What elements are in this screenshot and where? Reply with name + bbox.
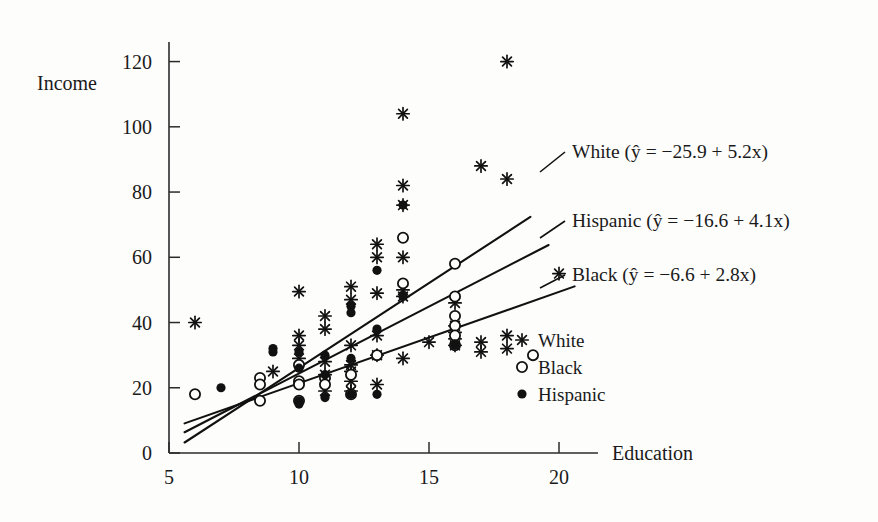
y-tick-label-80: 80 (132, 181, 152, 203)
y-tick-label-60: 60 (132, 246, 152, 268)
point-black (190, 389, 200, 399)
point-hispanic (320, 393, 329, 402)
axes-group (169, 42, 598, 453)
hispanic-line-label: Hispanic (ŷ = −16.6 + 4.1x) (572, 210, 790, 232)
point-white (501, 55, 513, 67)
x-tick-label-10: 10 (289, 466, 309, 488)
series-black (190, 233, 538, 406)
series-hispanic (216, 200, 459, 408)
point-black (528, 350, 538, 360)
regression-line-white (185, 217, 531, 443)
point-white (371, 378, 383, 390)
point-black (450, 330, 460, 340)
point-black (294, 379, 304, 389)
y-tick-group: 020406080100120 (122, 51, 180, 464)
point-hispanic (450, 341, 459, 350)
point-black (320, 379, 330, 389)
point-hispanic (294, 399, 303, 408)
point-black (450, 321, 460, 331)
black-leader-line (540, 275, 565, 288)
legend-marker-white (516, 334, 528, 346)
y-tick-label-120: 120 (122, 51, 152, 73)
legend-marker-black (517, 362, 527, 372)
point-black (450, 311, 460, 321)
point-white (475, 160, 487, 172)
white-label-text: White (ŷ = −25.9 + 5.2x) (572, 141, 768, 163)
point-white (501, 173, 513, 185)
annotation-leaders-group (540, 152, 565, 288)
series-white (189, 55, 565, 397)
point-hispanic (346, 390, 355, 399)
point-hispanic (268, 347, 277, 356)
white-line-label: White (ŷ = −25.9 + 5.2x) (572, 141, 768, 163)
point-white (397, 352, 409, 364)
white-leader-line (540, 152, 565, 172)
y-tick-label-20: 20 (132, 377, 152, 399)
legend: WhiteBlackHispanic (516, 330, 606, 405)
point-black (398, 278, 408, 288)
hispanic-label-text: Hispanic (ŷ = −16.6 + 4.1x) (572, 210, 790, 232)
point-white (501, 342, 513, 354)
point-white (189, 316, 201, 328)
x-tick-label-15: 15 (419, 466, 439, 488)
point-white (397, 179, 409, 191)
plot-canvas: 5101520 020406080100120 Income Education… (0, 0, 878, 522)
black-line-label: Black (ŷ = −6.6 + 2.8x) (572, 264, 756, 286)
point-white (501, 329, 513, 341)
point-black (372, 350, 382, 360)
y-tick-label-40: 40 (132, 312, 152, 334)
point-hispanic (372, 324, 381, 333)
point-white (267, 365, 279, 377)
y-tick-label-100: 100 (122, 116, 152, 138)
legend-label-white: White (538, 330, 584, 351)
point-white (345, 339, 357, 351)
regression-line-hispanic (185, 245, 549, 432)
point-white (423, 336, 435, 348)
x-tick-label-20: 20 (549, 466, 569, 488)
point-hispanic (372, 390, 381, 399)
point-white (397, 251, 409, 263)
point-black (450, 259, 460, 269)
point-hispanic (294, 364, 303, 373)
point-white (293, 285, 305, 297)
x-axis-label: Education (612, 442, 693, 464)
point-black (398, 233, 408, 243)
point-black (255, 396, 265, 406)
y-tick-label-0: 0 (142, 442, 152, 464)
point-hispanic (294, 347, 303, 356)
point-white (319, 323, 331, 335)
y-axis-label: Income (37, 72, 97, 94)
legend-label-black: Black (538, 357, 583, 378)
point-white (397, 108, 409, 120)
point-white (371, 251, 383, 263)
point-white (345, 280, 357, 292)
scatter-plot-figure: 5101520 020406080100120 Income Education… (0, 0, 878, 522)
point-hispanic (320, 370, 329, 379)
point-hispanic (398, 200, 407, 209)
x-tick-label-5: 5 (164, 466, 174, 488)
point-hispanic (398, 292, 407, 301)
legend-marker-hispanic (517, 389, 526, 398)
legend-label-hispanic: Hispanic (538, 384, 606, 405)
point-hispanic (346, 354, 355, 363)
x-tick-group: 5101520 (164, 442, 569, 488)
point-hispanic (320, 351, 329, 360)
point-black (346, 370, 356, 380)
point-white (371, 238, 383, 250)
point-white (475, 346, 487, 358)
point-hispanic (346, 308, 355, 317)
point-white (371, 287, 383, 299)
point-black (255, 379, 265, 389)
hispanic-leader-line (540, 221, 565, 238)
black-label-text: Black (ŷ = −6.6 + 2.8x) (572, 264, 756, 286)
point-black (450, 291, 460, 301)
point-white (319, 310, 331, 322)
point-hispanic (216, 383, 225, 392)
point-hispanic (372, 266, 381, 275)
